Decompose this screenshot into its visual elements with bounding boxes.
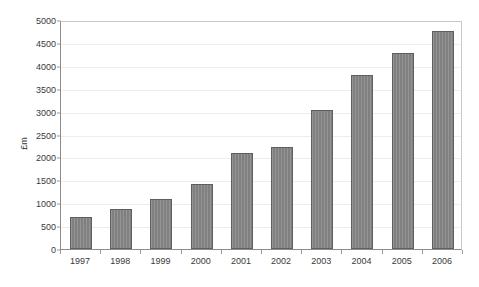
x-axis-tick-mark (301, 250, 302, 254)
x-axis-tick-label-2004: 2004 (351, 256, 371, 266)
y-axis-tick-labels: 0500100015002000250030003500400045005000 (24, 21, 60, 250)
y-axis-tick-label: 1500 (36, 176, 56, 186)
y-axis-tick-label: 2000 (36, 153, 56, 163)
plot-area (60, 21, 462, 250)
x-axis-tick-label-2006: 2006 (432, 256, 452, 266)
x-axis-tick-mark (181, 250, 182, 254)
x-axis-tick-marks (60, 250, 462, 255)
bar-slot (61, 22, 101, 249)
bar-slot (383, 22, 423, 249)
x-axis-tick-label-2000: 2000 (191, 256, 211, 266)
x-axis-tick-label-2003: 2003 (311, 256, 331, 266)
x-axis-tick-mark (60, 250, 61, 254)
x-axis-tick-mark (462, 250, 463, 254)
bars-layer (61, 22, 461, 249)
y-axis-tick-label: 3000 (36, 108, 56, 118)
bar-2000[interactable] (191, 184, 213, 249)
bar-2004[interactable] (351, 75, 373, 249)
bar-slot (141, 22, 181, 249)
y-axis-tick-label: 500 (41, 222, 56, 232)
bar-1997[interactable] (70, 217, 92, 249)
bar-2006[interactable] (432, 31, 454, 249)
x-axis-tick-mark (422, 250, 423, 254)
bar-2002[interactable] (271, 147, 293, 249)
bar-slot (302, 22, 342, 249)
y-axis-tick-label: 3500 (36, 85, 56, 95)
bar-slot (342, 22, 382, 249)
bar-1999[interactable] (150, 199, 172, 249)
y-axis-tick-label: 0 (51, 245, 56, 255)
y-axis-tick-label: 5000 (36, 16, 56, 26)
bar-2001[interactable] (231, 153, 253, 249)
x-axis-tick-mark (221, 250, 222, 254)
x-axis-tick-mark (341, 250, 342, 254)
y-axis-tick-label: 2500 (36, 131, 56, 141)
bar-1998[interactable] (110, 209, 132, 249)
y-axis-tick-label: 4000 (36, 62, 56, 72)
y-axis-tick-label: 4500 (36, 39, 56, 49)
x-axis-tick-label-1997: 1997 (70, 256, 90, 266)
bar-slot (101, 22, 141, 249)
y-axis-tick-label: 1000 (36, 199, 56, 209)
x-axis-tick-labels: 1997199819992000200120022003200420052006 (60, 256, 462, 274)
x-axis-tick-mark (382, 250, 383, 254)
bar-slot (182, 22, 222, 249)
bar-slot (423, 22, 463, 249)
bar-slot (262, 22, 302, 249)
bar-2005[interactable] (392, 53, 414, 249)
x-axis-tick-label-2001: 2001 (231, 256, 251, 266)
bar-2003[interactable] (311, 110, 333, 249)
x-axis-tick-label-1998: 1998 (110, 256, 130, 266)
x-axis-tick-mark (140, 250, 141, 254)
x-axis-tick-label-2002: 2002 (271, 256, 291, 266)
x-axis-tick-mark (261, 250, 262, 254)
x-axis-tick-label-2005: 2005 (392, 256, 412, 266)
bar-slot (222, 22, 262, 249)
bar-chart: £m 0500100015002000250030003500400045005… (0, 0, 479, 287)
x-axis-tick-label-1999: 1999 (150, 256, 170, 266)
x-axis-tick-mark (100, 250, 101, 254)
